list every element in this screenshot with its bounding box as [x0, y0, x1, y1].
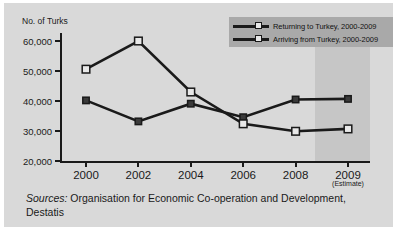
source-text: Organisation for Economic Co-operation a… — [26, 192, 346, 218]
data-point-marker — [83, 97, 89, 103]
chart-legend: Returning to Turkey, 2000-2009 Arriving … — [229, 17, 393, 47]
chart-card: No. of Turks 20,00030,00040,00050,00060,… — [4, 3, 393, 227]
data-point-marker — [187, 88, 195, 96]
series-line-returning — [86, 99, 348, 122]
y-axis-title: No. of Turks — [22, 16, 68, 26]
data-point-marker — [135, 118, 141, 124]
legend-line-icon — [233, 38, 269, 41]
source-note: Sources: Organisation for Economic Co-op… — [26, 192, 366, 219]
legend-label-returning: Returning to Turkey, 2000-2009 — [273, 22, 376, 31]
x-axis-tick-label: 2000 — [73, 169, 99, 181]
x-axis-tick-label: 2004 — [178, 169, 204, 181]
y-axis-tick-label: 50,000 — [23, 66, 52, 77]
data-point-marker — [292, 96, 298, 102]
x-axis-tick-label: 2006 — [230, 169, 256, 181]
legend-item-returning[interactable]: Returning to Turkey, 2000-2009 — [233, 20, 389, 32]
data-point-marker — [239, 120, 247, 128]
y-axis-tick-label: 60,000 — [23, 36, 52, 47]
series-line-arriving — [86, 41, 348, 131]
x-axis-tick-label: 2002 — [126, 169, 152, 181]
x-axis-tick-label: 2009(Estimate) — [332, 169, 364, 187]
chart-figure: No. of Turks 20,00030,00040,00050,00060,… — [0, 0, 397, 230]
legend-swatch-arriving — [233, 34, 269, 44]
legend-square-marker-icon — [255, 35, 262, 42]
y-axis-tick-label: 40,000 — [23, 96, 52, 107]
data-point-marker — [188, 101, 194, 107]
data-point-marker — [135, 37, 143, 45]
data-point-marker — [292, 128, 300, 136]
y-axis-tick-label: 30,000 — [23, 126, 52, 137]
data-point-marker — [82, 65, 90, 73]
legend-line-icon — [233, 25, 269, 28]
y-axis-tick-label: 20,000 — [23, 156, 52, 167]
legend-label-arriving: Arriving from Turkey, 2000-2009 — [273, 35, 378, 44]
x-axis-tick-label: 2008 — [283, 169, 309, 181]
x-axis-tick-sublabel: (Estimate) — [332, 180, 364, 187]
data-point-marker — [344, 125, 352, 133]
series-overlay — [60, 33, 370, 163]
plot-area: 20,00030,00040,00050,00060,000 200020022… — [60, 33, 370, 163]
source-prefix: Sources: — [26, 192, 67, 204]
legend-swatch-returning — [233, 21, 269, 31]
legend-item-arriving[interactable]: Arriving from Turkey, 2000-2009 — [233, 33, 389, 45]
data-point-marker — [345, 96, 351, 102]
legend-square-marker-icon — [255, 22, 262, 29]
